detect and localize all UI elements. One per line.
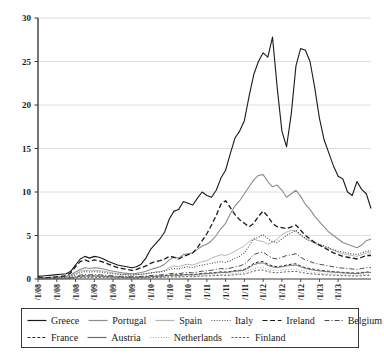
line-chart: 051015202530 1/1/085/1/089/1/081/1/095/1… bbox=[0, 0, 384, 300]
x-tick-label: 1/1/08 bbox=[34, 284, 43, 300]
x-tick-label: 5/1/11 bbox=[222, 284, 231, 300]
legend-label: Greece bbox=[51, 315, 79, 326]
legend-row: FranceAustriaNetherlandsFinland bbox=[27, 329, 353, 346]
chart-figure: 051015202530 1/1/085/1/089/1/081/1/095/1… bbox=[0, 0, 384, 356]
legend-label: Finland bbox=[255, 332, 286, 343]
legend-swatch-dotted bbox=[211, 316, 231, 325]
legend-label: Belgium bbox=[348, 315, 382, 326]
x-tick-label: 9/1/10 bbox=[184, 284, 193, 300]
legend-label: Spain bbox=[179, 315, 202, 326]
legend-swatch-dashed-fine bbox=[231, 333, 251, 342]
legend-entry-spain[interactable]: Spain bbox=[155, 315, 202, 326]
legend-entry-finland[interactable]: Finland bbox=[231, 332, 286, 343]
legend-label: Italy bbox=[235, 315, 253, 326]
x-tick-label: 9/1/09 bbox=[128, 284, 137, 300]
legend-entry-greece[interactable]: Greece bbox=[27, 315, 79, 326]
x-tick-label: 1/1/13 bbox=[316, 284, 325, 300]
legend-entry-belgium[interactable]: Belgium bbox=[324, 315, 382, 326]
x-tick-label: 9/1/11 bbox=[241, 284, 250, 300]
legend-swatch-dashed-short bbox=[27, 333, 47, 342]
series-line-belgium bbox=[38, 252, 371, 279]
legend-swatch-solid bbox=[155, 316, 175, 325]
x-axis-tick-labels: 1/1/085/1/089/1/081/1/095/1/099/1/091/1/… bbox=[34, 284, 343, 300]
chart-legend: GreecePortugalSpainItalyIrelandBelgiumFr… bbox=[21, 308, 359, 348]
series-lines bbox=[38, 37, 371, 279]
x-tick-label: 1/1/10 bbox=[147, 284, 156, 300]
x-tick-label: 5/1/12 bbox=[278, 284, 287, 300]
x-tick-label: 1/1/09 bbox=[90, 284, 99, 300]
legend-swatch-dashdot bbox=[324, 316, 344, 325]
x-tick-label: 5/1/08 bbox=[53, 284, 62, 300]
legend-swatch-solid bbox=[88, 316, 108, 325]
legend-label: Ireland bbox=[286, 315, 314, 326]
x-tick-label: 5/1/09 bbox=[109, 284, 118, 300]
legend-entry-austria[interactable]: Austria bbox=[87, 332, 140, 343]
series-line-greece bbox=[38, 37, 371, 276]
legend-swatch-dashed bbox=[262, 316, 282, 325]
legend-swatch-dotted bbox=[150, 333, 170, 342]
x-tick-label: 1/1/12 bbox=[259, 284, 268, 300]
x-tick-label: 9/1/08 bbox=[72, 284, 81, 300]
legend-swatch-solid bbox=[87, 333, 107, 342]
y-tick-label: 5 bbox=[27, 231, 32, 241]
y-tick-label: 15 bbox=[22, 144, 32, 154]
y-tick-label: 10 bbox=[22, 187, 32, 197]
y-tick-label: 25 bbox=[22, 57, 32, 67]
series-line-portugal bbox=[38, 175, 371, 278]
series-line-ireland bbox=[38, 201, 371, 278]
legend-label: France bbox=[51, 332, 78, 343]
legend-entry-france[interactable]: France bbox=[27, 332, 78, 343]
y-axis-tick-labels: 051015202530 bbox=[22, 13, 32, 284]
legend-label: Portugal bbox=[112, 315, 146, 326]
legend-entry-portugal[interactable]: Portugal bbox=[88, 315, 146, 326]
x-tick-label: 1/1/11 bbox=[203, 284, 212, 300]
y-tick-label: 0 bbox=[27, 274, 32, 284]
y-tick-label: 20 bbox=[22, 100, 32, 110]
y-tick-label: 30 bbox=[22, 13, 32, 23]
legend-swatch-solid bbox=[27, 316, 47, 325]
legend-label: Austria bbox=[111, 332, 140, 343]
legend-entry-netherlands[interactable]: Netherlands bbox=[150, 332, 222, 343]
legend-row: GreecePortugalSpainItalyIrelandBelgium bbox=[27, 312, 353, 329]
x-tick-label: 9/1/12 bbox=[297, 284, 306, 300]
x-tick-label: 5/1/13 bbox=[334, 284, 343, 300]
legend-label: Netherlands bbox=[174, 332, 222, 343]
x-tick-label: 5/1/10 bbox=[166, 284, 175, 300]
legend-entry-italy[interactable]: Italy bbox=[211, 315, 253, 326]
legend-entry-ireland[interactable]: Ireland bbox=[262, 315, 314, 326]
